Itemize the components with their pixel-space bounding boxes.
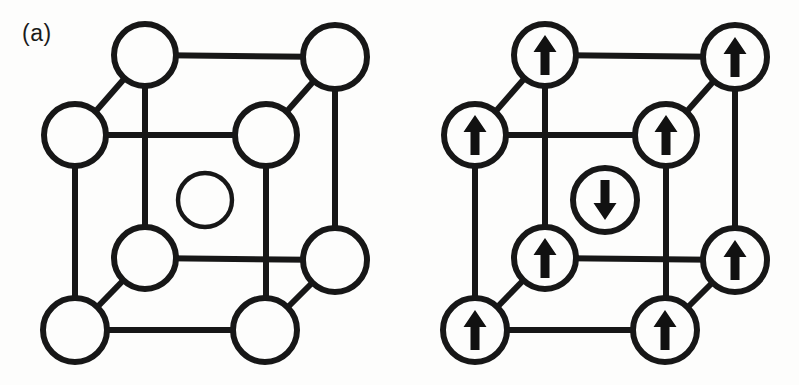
atom-back-bottom-right (303, 228, 367, 292)
atom-front-base-right (633, 298, 697, 362)
atom-circle-front-base-left (43, 298, 107, 362)
atom-circle-front-top-right (235, 104, 297, 166)
atom-circle-front-bottom-left (114, 227, 176, 289)
atom-circle-back-top-left (114, 24, 176, 86)
bcc-unit-cell-with-spins (400, 0, 799, 385)
atom-body-center (573, 168, 637, 232)
atom-front-bottom-left (114, 227, 176, 289)
atom-front-bottom-left (514, 227, 576, 289)
atom-circle-front-base-right (233, 298, 297, 362)
atom-back-top-left (514, 24, 576, 86)
atom-front-top-right (235, 104, 297, 166)
atom-circle-back-bottom-right (303, 228, 367, 292)
atom-circle-front-top-left (44, 104, 106, 166)
bcc-unit-cell-plain (0, 0, 399, 385)
atom-circle-back-top-right (303, 25, 367, 89)
atom-circle-body-center (178, 173, 232, 227)
atom-front-base-left (43, 298, 107, 362)
atom-front-top-left (444, 104, 506, 166)
atom-back-top-right (303, 25, 367, 89)
atom-back-top-left (114, 24, 176, 86)
atom-front-top-left (44, 104, 106, 166)
atom-back-top-right (703, 25, 767, 89)
atom-front-base-left (443, 298, 507, 362)
panel-b: (b) (400, 0, 799, 385)
panel-a: (a) (0, 0, 399, 385)
atom-front-base-right (233, 298, 297, 362)
atom-back-bottom-right (703, 228, 767, 292)
atom-body-center (178, 173, 232, 227)
figure-canvas: (a) (b) (0, 0, 799, 385)
atom-front-top-right (635, 104, 697, 166)
